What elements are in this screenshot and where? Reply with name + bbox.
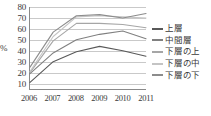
x-axis-tick-label: 2009: [91, 93, 107, 103]
legend-line-swatch: [152, 63, 163, 65]
y-axis-tick-label: 40: [17, 47, 26, 56]
x-axis-tick-label: 2008: [68, 93, 84, 103]
legend-item: 下層の下: [152, 69, 211, 81]
y-axis-tick-label: 30: [17, 58, 26, 67]
legend-label: 下層の上: [165, 47, 200, 56]
series-line: [30, 46, 146, 82]
y-axis-tick-label: 20: [17, 69, 26, 78]
plot-area: [29, 7, 146, 90]
x-axis-tick-label: 2011: [138, 93, 154, 103]
x-axis-tick-labels: 200620072008200920102011: [29, 93, 146, 107]
legend-item: 下層の中: [152, 58, 211, 70]
series-lines: [30, 7, 146, 89]
legend-line-swatch: [152, 28, 163, 30]
legend-label: 下層の中: [165, 59, 200, 68]
chart-legend: 上層中間層下層の上下層の中下層の下: [152, 23, 211, 81]
series-line: [30, 16, 146, 72]
y-axis-tick-label: 70: [17, 14, 26, 23]
legend-label: 上層: [165, 24, 183, 33]
x-axis-tick-label: 2007: [44, 93, 60, 103]
line-chart: 1020304050607080 % 200620072008200920102…: [0, 0, 211, 116]
y-axis-tick-label: 80: [17, 3, 26, 12]
legend-item: 下層の上: [152, 46, 211, 58]
legend-line-swatch: [152, 39, 163, 41]
legend-line-swatch: [152, 74, 163, 76]
x-axis-tick-label: 2010: [115, 93, 131, 103]
legend-label: 中間層: [165, 36, 191, 45]
y-axis-tick-label: 60: [17, 25, 26, 34]
legend-label: 下層の下: [165, 71, 200, 80]
legend-item: 上層: [152, 23, 211, 35]
y-axis-tick-label: 50: [17, 36, 26, 45]
x-axis-tick-label: 2006: [21, 93, 37, 103]
legend-line-swatch: [152, 51, 163, 53]
series-line: [30, 14, 146, 68]
y-axis-tick-label: 10: [17, 80, 26, 89]
legend-item: 中間層: [152, 35, 211, 47]
series-line: [30, 23, 146, 72]
y-axis-title: %: [0, 44, 8, 53]
